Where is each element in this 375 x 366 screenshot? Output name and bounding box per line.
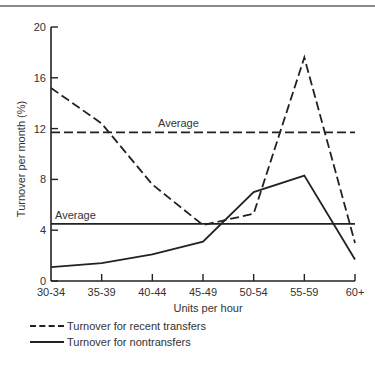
legend-item-recent-transfers: Turnover for recent transfers xyxy=(30,320,206,332)
average-label-lower: Average xyxy=(55,209,96,221)
x-tick-label: 30-34 xyxy=(37,286,65,298)
y-tick-label: 8 xyxy=(40,173,46,185)
legend-item-nontransfers: Turnover for nontransfers xyxy=(30,336,191,348)
x-tick-label: 45-49 xyxy=(189,286,217,298)
x-tick-label: 50-54 xyxy=(240,286,268,298)
x-tick-label: 60+ xyxy=(346,286,365,298)
x-axis-label: Units per hour xyxy=(173,302,242,314)
x-tick-label: 40-44 xyxy=(138,286,166,298)
legend-label: Turnover for recent transfers xyxy=(67,320,206,332)
series-line-recent-transfers xyxy=(51,57,355,242)
line-chart: 04812162030-3435-3940-4445-4950-5455-596… xyxy=(0,0,375,366)
y-tick-label: 4 xyxy=(40,224,46,236)
y-axis-label: Turnover per month (%) xyxy=(15,101,27,217)
y-tick-label: 12 xyxy=(34,123,46,135)
dashed-line-swatch-icon xyxy=(30,325,64,327)
legend-label: Turnover for nontransfers xyxy=(67,336,191,348)
average-label-upper: Average xyxy=(158,117,199,129)
series-line-nontransfers xyxy=(51,176,355,267)
y-tick-label: 16 xyxy=(34,72,46,84)
y-tick-label: 20 xyxy=(34,21,46,33)
solid-line-swatch-icon xyxy=(30,341,64,343)
x-tick-label: 55-59 xyxy=(290,286,318,298)
x-tick-label: 35-39 xyxy=(88,286,116,298)
